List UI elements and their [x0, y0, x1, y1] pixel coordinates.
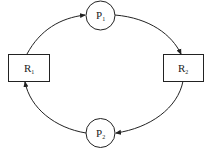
edge-r1-to-p1 — [27, 15, 85, 54]
resource-allocation-graph: P1 P2 R1 R2 — [0, 0, 207, 150]
process-node-p2: P2 — [86, 119, 115, 148]
edge-r2-to-p2 — [116, 81, 183, 133]
node-subscript: 1 — [102, 16, 105, 22]
resource-node-r1: R1 — [9, 55, 50, 82]
node-subscript: 1 — [31, 69, 34, 75]
edge-p2-to-r1 — [25, 82, 86, 133]
node-subscript: 2 — [102, 134, 105, 140]
edge-p1-to-r2 — [115, 15, 181, 54]
node-subscript: 2 — [185, 69, 188, 75]
process-node-p1: P1 — [86, 1, 115, 30]
resource-node-r2: R2 — [164, 55, 204, 82]
